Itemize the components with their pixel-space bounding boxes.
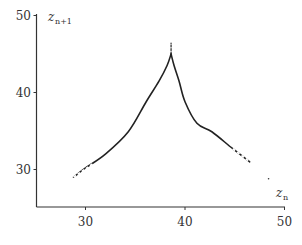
y-axis-label-base: z [47,10,55,24]
y-axis-label-sub: n+1 [55,17,72,26]
chart-canvas: 304050304050 z n+1 z n [0,0,302,245]
y-tick-label: 50 [16,9,31,23]
x-tick-label: 50 [277,215,292,229]
tick-labels: 304050304050 [16,9,292,230]
x-axis-label: z n [275,186,288,202]
y-tick-label: 40 [16,86,31,100]
x-axis-label-base: z [275,186,283,200]
data-series [74,43,270,179]
x-tick-label: 40 [177,215,192,229]
x-tick-label: 30 [78,215,93,229]
series-line [74,54,172,177]
y-axis-label: z n+1 [47,10,72,26]
tick-marks [34,16,285,211]
y-tick-label: 30 [16,163,31,177]
x-axis-label-sub: n [283,193,288,202]
isolated-point [268,178,270,180]
series-line [171,54,250,162]
